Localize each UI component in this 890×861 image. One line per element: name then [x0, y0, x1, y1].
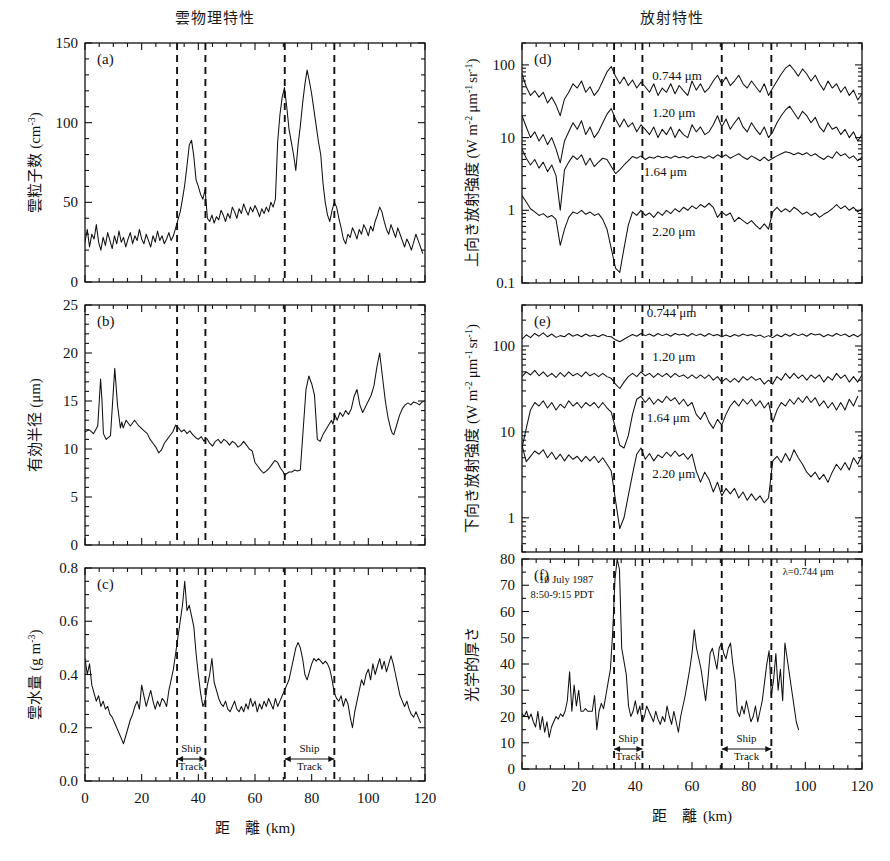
curve-label: 1.20 μm — [652, 105, 695, 120]
ylabel-d: 上向き放射強度(W m-2μm-1sr-1) — [463, 59, 481, 268]
xaxis-title: 距 離(km) — [215, 819, 295, 837]
ship-track-label-line1: Ship — [181, 742, 202, 754]
ytick-label-b: 15 — [63, 393, 78, 409]
ytick-label-d: 0.1 — [496, 275, 515, 291]
panel-annotation: 10 July 1987 — [539, 574, 593, 585]
xtick-label: 80 — [741, 778, 756, 794]
ship-track-annotation: ShipTrack — [285, 742, 335, 772]
ytick-label-c: 0.0 — [59, 773, 78, 789]
panel-a: 050100150(a) — [56, 35, 426, 290]
series-line — [522, 445, 862, 528]
panel-b: 0510152025(b) — [63, 297, 425, 553]
ytick-label-f: 70 — [500, 577, 515, 593]
ytick-label-b: 0 — [71, 537, 79, 553]
xtick-label: 0 — [518, 778, 526, 794]
ytick-label-d: 10 — [500, 130, 515, 146]
ytick-label-f: 60 — [500, 604, 515, 620]
ytick-label-c: 0.2 — [59, 720, 78, 736]
xtick-label: 120 — [414, 790, 437, 806]
figure-canvas: 050100150(a)雲粒子数(cm-3)0510152025(b)有効半径(… — [0, 0, 890, 861]
ytick-label-d: 100 — [493, 57, 516, 73]
ytick-label-d: 1 — [508, 202, 516, 218]
xtick-label: 120 — [851, 778, 874, 794]
ship-track-label-line2: Track — [297, 760, 323, 772]
ytick-label-e: 10 — [500, 424, 515, 440]
ytick-label-a: 0 — [71, 274, 79, 290]
ytick-label-f: 50 — [500, 630, 515, 646]
curve-label: 2.20 μm — [652, 466, 695, 481]
axis-frame-a — [85, 43, 425, 282]
series-line — [522, 333, 862, 342]
ytick-label-f: 20 — [500, 709, 515, 725]
ylabel-c: 雲水量(g m-3) — [26, 629, 44, 719]
xtick-label: 20 — [571, 778, 586, 794]
axis-frame-c — [85, 568, 425, 781]
curve-label: 0.744 μm — [647, 305, 697, 320]
series-line — [522, 396, 858, 448]
ylabel-f: 光学的厚さ — [464, 627, 480, 702]
ylabel-e: 下向き放射強度(W m-2μm-1sr-1) — [463, 324, 481, 533]
xtick-label: 0 — [81, 790, 89, 806]
xtick-label: 60 — [685, 778, 700, 794]
curve-label: 1.64 μm — [644, 164, 687, 179]
ship-track-annotation: ShipTrack — [614, 732, 642, 762]
panel-label-a: (a) — [97, 51, 114, 68]
panel-f: 01020304050607080(f)10 July 19878:50-9:1… — [500, 551, 862, 777]
ship-track-label-line1: Ship — [618, 732, 639, 744]
ytick-label-f: 80 — [500, 551, 515, 567]
right-column-title: 放射特性 — [640, 6, 704, 27]
ytick-label-b: 25 — [63, 297, 78, 313]
curve-label: 1.20 μm — [652, 349, 695, 364]
xtick-label: 40 — [628, 778, 643, 794]
xtick-label: 80 — [304, 790, 319, 806]
series-line — [85, 581, 420, 743]
xtick-label: 100 — [357, 790, 380, 806]
ylabel-b: 有効半径(μm) — [27, 378, 44, 472]
xtick-label: 20 — [134, 790, 149, 806]
ytick-label-a: 100 — [56, 115, 79, 131]
ytick-label-e: 100 — [493, 338, 516, 354]
xtick-label: 100 — [794, 778, 817, 794]
panel-label-c: (c) — [97, 576, 114, 593]
curve-label: 1.64 μm — [647, 410, 690, 425]
ship-track-label-line1: Ship — [736, 732, 757, 744]
series-line — [85, 70, 423, 253]
ship-track-label-line2: Track — [616, 750, 642, 762]
ytick-label-c: 0.4 — [59, 667, 78, 683]
ship-track-annotation: ShipTrack — [177, 742, 205, 772]
ytick-label-b: 20 — [63, 345, 78, 361]
ytick-label-b: 5 — [71, 489, 79, 505]
series-line — [522, 370, 862, 388]
series-line — [85, 353, 425, 476]
series-line — [522, 149, 862, 210]
ytick-label-f: 40 — [500, 656, 515, 672]
curve-label: 0.744 μm — [652, 68, 702, 83]
curve-label: 2.20 μm — [652, 224, 695, 239]
ship-track-label-line1: Ship — [299, 742, 320, 754]
panel-label-b: (b) — [97, 313, 115, 330]
xaxis-title: 距 離(km) — [652, 807, 732, 825]
ship-track-label-line2: Track — [179, 760, 205, 772]
ytick-label-a: 150 — [56, 35, 79, 51]
panel-annotation: 8:50-9:15 PDT — [531, 589, 595, 600]
ship-track-label-line2: Track — [734, 750, 760, 762]
panel-label-d: (d) — [534, 51, 552, 68]
ytick-label-a: 50 — [63, 194, 78, 210]
ytick-label-c: 0.8 — [59, 560, 78, 576]
ytick-label-b: 10 — [63, 441, 78, 457]
ytick-label-e: 1 — [508, 510, 516, 526]
panel-annotation: λ=0.744 μm — [783, 566, 834, 577]
panel-c: 0.00.20.40.60.8(c) — [59, 560, 425, 789]
xtick-label: 60 — [248, 790, 263, 806]
xtick-label: 40 — [191, 790, 206, 806]
ytick-label-c: 0.6 — [59, 613, 78, 629]
ship-track-annotation: ShipTrack — [722, 732, 772, 762]
series-line — [522, 559, 799, 738]
ytick-label-f: 10 — [500, 735, 515, 751]
ytick-label-f: 30 — [500, 682, 515, 698]
panel-d: 0.1110100(d)0.744 μm1.20 μm1.64 μm2.20 μ… — [493, 43, 863, 291]
panel-label-e: (e) — [534, 313, 551, 330]
ytick-label-f: 0 — [508, 761, 516, 777]
axis-frame-b — [85, 305, 425, 545]
panel-e: 110100(e)0.744 μm1.20 μm1.64 μm2.20 μm — [493, 305, 863, 552]
